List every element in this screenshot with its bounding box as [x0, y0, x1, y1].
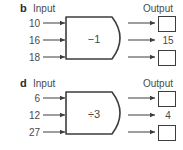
answer-box[interactable] [158, 125, 176, 141]
answer-box[interactable] [158, 16, 176, 32]
machine-rule-d: ÷3 [66, 109, 122, 120]
function-machine-panel-b: b Input Output 10 16 18 −1 15 [0, 0, 183, 75]
output-value: 4 [158, 111, 178, 121]
answer-box[interactable] [158, 91, 176, 107]
answer-box[interactable] [158, 50, 176, 66]
machine-rule-b: −1 [66, 34, 122, 45]
output-value: 15 [158, 36, 178, 46]
function-machine-panel-d: d Input Output 6 12 27 ÷3 4 [0, 75, 183, 150]
